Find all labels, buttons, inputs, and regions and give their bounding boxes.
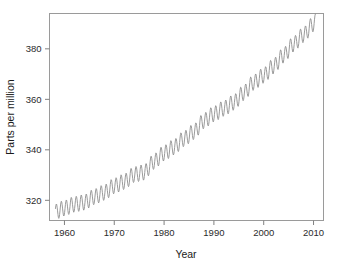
co2-line-chart: 320340360380 196019701980199020002010 Ye… [0, 0, 337, 269]
y-axis-tick-label: 380 [26, 43, 42, 54]
x-axis-tick-label: 1990 [203, 227, 224, 238]
x-axis-tick-label: 2010 [303, 227, 324, 238]
x-axis: 196019701980199020002010 [54, 221, 324, 238]
x-axis-tick-label: 1960 [54, 227, 75, 238]
x-axis-tick-label: 1970 [104, 227, 125, 238]
y-axis-tick-label: 360 [26, 94, 42, 105]
x-axis-tick-label: 1980 [154, 227, 175, 238]
y-axis: 320340360380 [26, 43, 50, 205]
y-axis-title: Parts per million [4, 79, 16, 154]
x-axis-tick-label: 2000 [253, 227, 274, 238]
x-axis-title: Year [175, 248, 197, 260]
co2-data-line [55, 14, 315, 218]
y-axis-tick-label: 320 [26, 195, 42, 206]
y-axis-tick-label: 340 [26, 144, 42, 155]
plot-frame [50, 14, 324, 221]
chart-page: 320340360380 196019701980199020002010 Ye… [0, 0, 337, 269]
